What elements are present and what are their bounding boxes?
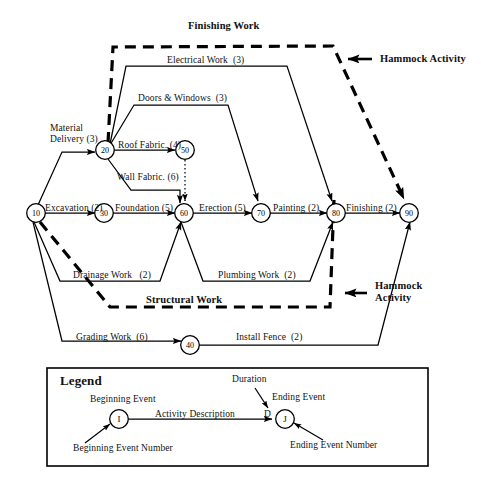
activity-label-grading-work: Grading Work (6) [76,332,148,343]
activity-label-foundation: Foundation (5) [115,203,173,214]
node-label-40: 40 [186,341,194,350]
legend-duration-symbol: D [264,409,271,420]
legend-beginning-event-number-label: Beginning Event Number [73,443,173,454]
legend-node-begin-label: I [118,414,121,424]
annotation-hammock-activity-top: Hammock Activity [380,53,466,64]
legend-ending-event-label: Ending Event [272,392,325,403]
activity-label-plumbing-work: Plumbing Work (2) [218,270,296,281]
legend-ending-event-number-label: Ending Event Number [290,440,377,451]
callout-pointers [345,59,372,293]
diagram-canvas [0,0,481,486]
node-label-80: 80 [332,209,340,218]
legend-title: Legend [60,375,102,386]
annotation-hammock-activity-bottom-line1: Hammock [375,280,422,291]
node-label-90: 90 [405,209,413,218]
activity-label-painting: Painting (2) [273,203,319,214]
network-diagram-figure: 10 20 30 40 50 60 70 80 90 Finishing Wor… [0,0,481,486]
activity-label-material-delivery: Material Delivery (3) [50,123,98,145]
node-label-50: 50 [181,146,189,155]
hammock-title-structural-work: Structural Work [146,294,222,305]
annotation-hammock-activity-bottom-line2: Activity [375,292,411,303]
activity-label-excavation: Excavation (2) [45,203,103,214]
node-label-10: 10 [32,209,40,218]
activity-label-roof-fabric: Roof Fabric. (4) [118,140,181,151]
activity-label-drainage-work: Drainage Work (2) [73,270,151,281]
activity-label-electrical-work: Electrical Work (3) [167,55,244,66]
activity-label-doors-windows: Doors & Windows (3) [138,93,227,104]
event-nodes [27,141,419,355]
legend-activity-description-label: Activity Description [155,409,235,420]
legend-duration-label: Duration [232,374,267,385]
activity-label-install-fence: Install Fence (2) [236,332,302,343]
activity-label-erection: Erection (5) [199,203,246,214]
node-label-60: 60 [180,209,188,218]
arrow-material-delivery [38,152,95,205]
activity-label-wall-fabric: Wall Fabric. (6) [117,172,179,183]
node-label-70: 70 [257,209,265,218]
legend-node-end-label: J [283,414,287,424]
hammock-title-finishing-work: Finishing Work [188,20,260,31]
legend-beginning-event-label: Beginning Event [90,394,156,405]
activity-label-finishing: Finishing (2) [346,203,397,214]
node-label-20: 20 [101,146,109,155]
